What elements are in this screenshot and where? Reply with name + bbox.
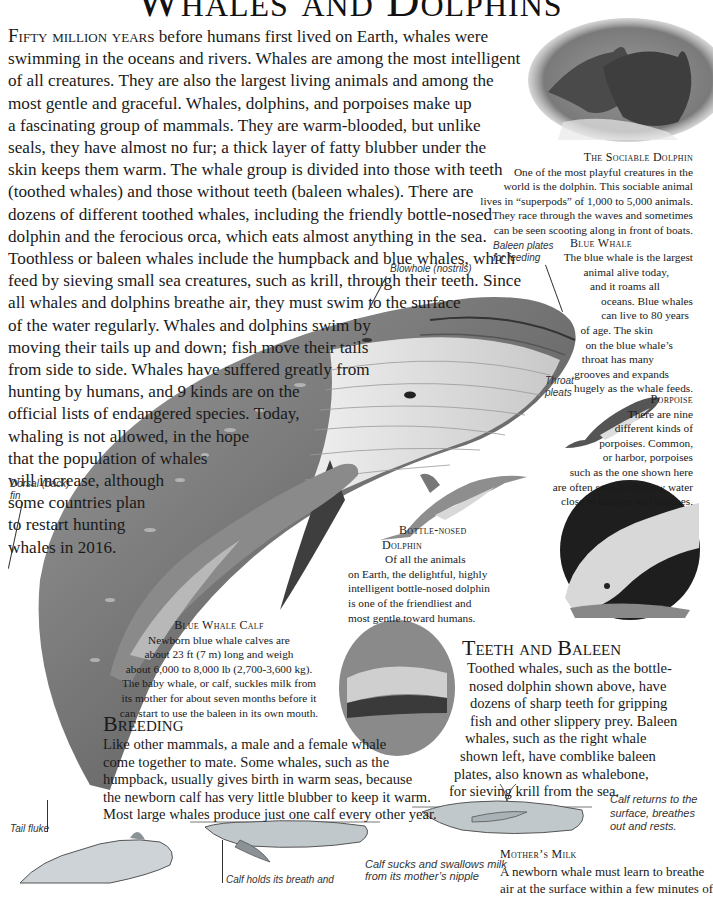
caption-bottle-nosed-dolphin: Bottle-nosed Dolphin Of all the animals … — [370, 523, 540, 625]
leader-line — [222, 840, 223, 883]
caption-title: Blue Whale Calf — [104, 618, 334, 633]
label-calf-holds-breath: Calf holds its breath and — [226, 874, 334, 886]
intro-line: seals, they have almost no fur; a thick … — [8, 137, 528, 159]
caption-title: Porpoise — [493, 392, 693, 407]
caption-porpoise: Porpoise There are nine different kinds … — [493, 392, 693, 509]
intro-line: hunting by humans, and 9 kinds are on th… — [8, 381, 528, 403]
caption-title: Bottle-nosed — [370, 523, 540, 538]
leader-line — [47, 800, 48, 832]
intro-line: a fascinating group of mammals. They are… — [8, 115, 528, 137]
section-body: Like other mammals, a male and a female … — [103, 736, 453, 824]
intro-lead: Fifty million years — [8, 25, 154, 46]
intro-line: most gentle and graceful. Whales, dolphi… — [8, 93, 528, 115]
intro-line: official lists of endangered species. To… — [8, 403, 528, 425]
label-throat-pleats: Throat pleats — [545, 375, 574, 399]
caption-blue-whale: Blue Whale — [570, 236, 699, 251]
intro-line: of the water regularly. Whales and dolph… — [8, 315, 528, 337]
intro-line: some countries plan — [8, 492, 528, 514]
leaping-dolphins-photo — [528, 22, 699, 140]
intro-line: whaling is not allowed, in the hope — [8, 426, 528, 448]
label-dorsal-fin: Dorsal (back) fin — [10, 478, 69, 502]
label-baleen-plates: Baleen plates for feeding — [493, 240, 554, 264]
intro-line: (toothed whales) and those without teeth… — [8, 181, 528, 203]
intro-line: swimming in the oceans and rivers. Whale… — [8, 48, 528, 70]
section-breeding: Breeding Like other mammals, a male and … — [103, 712, 453, 824]
intro-line: dolphin and the ferocious orca, which ea… — [8, 226, 528, 248]
intro-line: skin keeps them warm. The whale group is… — [8, 159, 528, 181]
intro-line: all whales and dolphins breathe air, the… — [8, 292, 528, 314]
intro-line: of all creatures. They are also the larg… — [8, 70, 528, 92]
intro-paragraph: Fifty million years before humans first … — [8, 25, 528, 559]
label-calf-returns: Calf returns to the surface, breathes ou… — [610, 793, 697, 834]
intro-line: that the population of whales — [8, 448, 528, 470]
label-calf-sucks-milk: Calf sucks and swallows milk from its mo… — [365, 858, 507, 882]
intro-line: dozens of different toothed whales, incl… — [8, 204, 528, 226]
intro-line: moving their tails up and down; fish mov… — [8, 337, 528, 359]
intro-line-0: Fifty million years before humans first … — [8, 25, 528, 48]
caption-blue-whale-calf: Blue Whale Calf Newborn blue whale calve… — [104, 618, 334, 720]
caption-sociable-dolphin: The Sociable Dolphin One of the most pla… — [453, 150, 693, 238]
section-body: Toothed whales, such as the bottle- nose… — [462, 660, 699, 801]
caption-title: Blue Whale — [570, 236, 699, 251]
caption-title: Mother’s Milk — [500, 846, 699, 863]
caption-title: Dolphin — [370, 538, 540, 553]
caption-title: The Sociable Dolphin — [453, 150, 693, 165]
intro-line: from side to side. Whales have suffered … — [8, 359, 528, 381]
label-blowhole: Blowhole (nostrils) — [390, 263, 472, 275]
section-teeth-and-baleen: Teeth and Baleen Toothed whales, such as… — [462, 636, 699, 801]
page-title: Whales and Dolphins — [0, 0, 699, 24]
caption-mothers-milk: Mother’s Milk A newborn whale must learn… — [500, 846, 699, 897]
caption-blue-whale-body: The blue whale is the largest animal ali… — [513, 250, 693, 396]
section-heading: Breeding — [103, 712, 453, 736]
label-tail-fluke: Tail fluke — [10, 823, 49, 835]
section-heading: Teeth and Baleen — [462, 636, 699, 660]
intro-line: will increase, although — [8, 470, 528, 492]
